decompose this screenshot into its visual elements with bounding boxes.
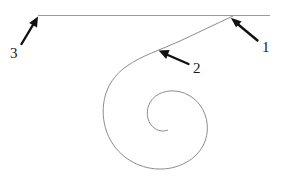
callout-label-3: 3 bbox=[10, 46, 18, 61]
figure-canvas: 1 2 3 bbox=[0, 0, 287, 181]
callout-label-2: 2 bbox=[193, 61, 201, 76]
callout-arrow-3-shaft bbox=[22, 24, 34, 44]
figure-drawing bbox=[0, 0, 287, 181]
callout-arrow-2 bbox=[159, 50, 189, 64]
spiral-curve bbox=[103, 16, 233, 169]
callout-arrow-3 bbox=[22, 17, 39, 44]
callout-arrow-1-shaft bbox=[237, 24, 258, 41]
callout-label-1: 1 bbox=[262, 40, 270, 55]
callout-arrow-1 bbox=[231, 18, 258, 41]
callout-arrow-2-shaft bbox=[166, 54, 189, 64]
